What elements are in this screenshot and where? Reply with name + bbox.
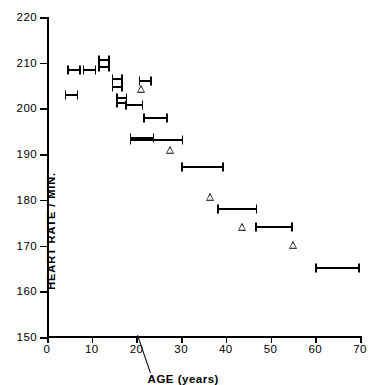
range-bar-line [130,137,155,139]
range-bar-cap-right [150,76,152,85]
y-tick-label: 190 [17,148,37,160]
range-bar-cap-right [79,66,81,75]
triangle-marker [238,223,246,231]
x-tick [47,336,49,343]
y-tick [40,154,47,156]
x-axis-title: AGE (years) [148,373,219,385]
x-tick [360,336,362,343]
x-tick-label: 50 [264,343,278,355]
y-tick-label: 150 [17,331,37,343]
x-tick [92,336,94,343]
y-tick-label: 170 [17,240,37,252]
range-bar-cap-right [95,66,97,75]
range-bar-cap-right [358,264,360,273]
x-tick [136,336,138,343]
x-tick-label: 30 [174,343,188,355]
y-tick-label: 210 [17,57,37,69]
y-axis-title-wrap: HEART RATE / MIN. [55,17,56,337]
triangle-marker [206,193,214,201]
range-bar-line [315,267,360,269]
range-bar-cap-right [222,162,224,171]
x-tick [226,336,228,343]
range-bar-line [181,166,223,168]
range-bar-line [255,226,293,228]
range-bar-line [217,208,257,210]
y-tick-label: 160 [17,285,37,297]
triangle-marker [137,85,145,93]
range-bar-cap-right [121,82,123,91]
range-bar-cap-right [256,205,258,214]
x-tick-label: 10 [85,343,99,355]
range-bar-line [130,139,184,141]
range-bar-cap-right [166,114,168,123]
x-tick-label: 60 [308,343,322,355]
x-axis-line [47,336,361,338]
range-bar-line [143,117,168,119]
y-tick-label: 200 [17,102,37,114]
x-tick [271,336,273,343]
x-tick-label: 20 [130,343,144,355]
y-tick [40,200,47,202]
range-bar-cap-right [291,223,293,232]
x-tick-label: 0 [44,343,51,355]
triangle-marker [289,240,297,248]
y-tick [40,246,47,248]
y-tick [40,108,47,110]
y-tick [40,291,47,293]
y-axis-title: HEART RATE / MIN. [45,172,57,290]
y-tick [40,337,47,339]
x-tick [181,336,183,343]
x-tick-label: 40 [219,343,233,355]
range-bar-cap-right [182,136,184,145]
range-bar-cap-right [77,91,79,100]
triangle-marker [166,146,174,154]
x-tick [315,336,317,343]
range-bar-line [125,104,143,106]
y-tick-label: 220 [17,11,37,23]
y-tick [40,17,47,19]
x-tick-label: 70 [353,343,367,355]
y-tick-label: 180 [17,194,37,206]
range-bar-cap-right [108,63,110,72]
plot-area: HEART RATE / MIN. AGE (years) 1501601701… [47,17,360,337]
range-bar-cap-right [142,100,144,109]
y-tick [40,63,47,65]
